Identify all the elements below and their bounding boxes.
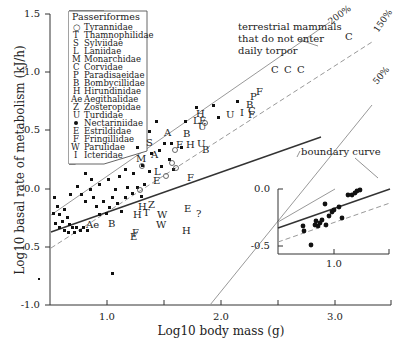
svg-text:-1.0: -1.0: [21, 299, 40, 310]
svg-text:terrestrial mammals: terrestrial mammals: [238, 21, 342, 32]
svg-text:S: S: [146, 137, 153, 148]
svg-text:C: C: [284, 64, 292, 75]
svg-text:F: F: [256, 86, 263, 97]
svg-text:1.0: 1.0: [99, 311, 115, 322]
svg-text:E: E: [153, 175, 160, 186]
svg-text:C: C: [297, 64, 305, 75]
svg-text:-0.5: -0.5: [251, 240, 270, 251]
svg-text:H: H: [182, 225, 191, 236]
legend: Passeriformes ○Tyrannidae TThamnophilida…: [69, 11, 153, 164]
svg-text:U: U: [198, 121, 206, 132]
svg-text:F: F: [132, 227, 139, 238]
svg-text:1.0: 1.0: [326, 258, 342, 269]
svg-text:0.0: 0.0: [254, 183, 270, 194]
svg-text:U: U: [73, 110, 80, 120]
svg-text:B: B: [108, 218, 115, 229]
x-axis-label: Log10 body mass (g): [158, 324, 285, 338]
y-axis-label: Log10 basal rate of metabolism (kJ/h): [13, 45, 27, 274]
svg-text:U: U: [226, 109, 234, 120]
inset-chart: 0.0 -0.5 1.0: [251, 183, 390, 269]
svg-text:daily torpor: daily torpor: [238, 45, 298, 56]
svg-text:E: E: [184, 203, 191, 214]
svg-text:1.5: 1.5: [24, 8, 40, 19]
svg-text:I: I: [74, 150, 77, 160]
svg-text:H: H: [196, 108, 205, 119]
svg-text:F: F: [176, 139, 183, 150]
svg-text:Passeriformes: Passeriformes: [72, 11, 140, 22]
svg-text:C: C: [271, 64, 279, 75]
svg-text:I: I: [240, 107, 244, 118]
svg-text:M: M: [136, 153, 146, 164]
svg-text:that do not enter: that do not enter: [238, 33, 324, 44]
svg-text:A: A: [163, 127, 172, 138]
svg-text:3.0: 3.0: [327, 311, 343, 322]
chart: 1.5 1.0 0.5 0.0 -0.5 -1.0 1.0 2.0 3.0 Lo…: [0, 0, 398, 343]
svg-text:H: H: [138, 201, 147, 212]
svg-text:Z: Z: [148, 199, 155, 210]
svg-text:B: B: [183, 128, 190, 139]
svg-text:W: W: [156, 219, 167, 230]
svg-text:Icteridae: Icteridae: [84, 150, 123, 160]
svg-text:B: B: [202, 144, 209, 155]
x-tick-labels: 1.0 2.0 3.0: [99, 311, 343, 322]
svg-text:150%: 150%: [371, 7, 394, 34]
svg-text:?: ?: [196, 208, 201, 219]
svg-text:C: C: [345, 31, 353, 42]
svg-text:H: H: [186, 139, 195, 150]
line-50pct: [210, 105, 372, 305]
svg-text:F: F: [248, 109, 255, 120]
svg-text:Ae: Ae: [85, 219, 99, 230]
svg-text:F: F: [187, 172, 194, 183]
svg-text:A: A: [150, 149, 159, 160]
svg-text:boundary curve: boundary curve: [301, 146, 381, 157]
svg-text:50%: 50%: [371, 64, 392, 86]
svg-text:2.0: 2.0: [213, 311, 229, 322]
